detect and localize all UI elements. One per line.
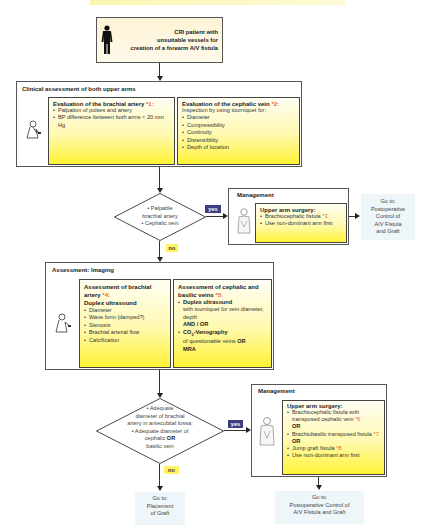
arrow-down-icon <box>157 486 163 491</box>
reference-marker: *2: <box>271 101 279 107</box>
connector-line <box>224 430 246 431</box>
decision-line: brachial artery <box>124 213 196 221</box>
decision-or: OR <box>167 435 175 441</box>
item-bold: Duplex ultrasound <box>183 299 232 305</box>
decision-line: • Adequate <box>110 405 210 413</box>
decision-text: cephalic <box>145 435 167 441</box>
list-item: Brachiobasilic transposed fistula *7 OR <box>287 431 380 445</box>
connector-line <box>159 63 160 76</box>
connector-line <box>206 216 223 217</box>
decision-line: artery in antecubital fossa; <box>110 420 210 428</box>
list-item: CO2-Venographyof questionable veins ORMR… <box>178 329 267 353</box>
start-line: CRI patient with <box>131 28 218 36</box>
arrow-right-icon <box>355 213 360 219</box>
item-text: of questionable veins <box>183 338 236 344</box>
veins-imaging-heading: Assessment of cephalic and basilic veins… <box>178 283 267 299</box>
or-text: OR <box>292 423 300 429</box>
goto-postoperative-control-1[interactable]: Go to: Postoperative Control of A/V Fist… <box>361 194 415 240</box>
arrow-down-icon <box>316 485 322 490</box>
list-item: Duplex ultrasoundwith tourniquet for vei… <box>178 299 267 329</box>
cephalic-intro: Inspection by using tourniquet for: <box>182 107 295 114</box>
connector-line <box>159 464 160 487</box>
connector-line <box>318 477 319 485</box>
connector-line <box>159 167 160 188</box>
doctor-examining-icon <box>24 120 42 142</box>
list-item: Diameter <box>84 307 166 314</box>
heading-text: Assessment of brachial artery <box>84 284 151 298</box>
decision1-text: • Palpable brachial artery • Cephalic ve… <box>124 205 196 228</box>
reference-marker: *8 <box>336 445 341 451</box>
item-bold: MRA <box>183 346 196 352</box>
decision2-text: • Adequate diameter of brachial artery i… <box>110 405 210 451</box>
veins-imaging-list: Duplex ultrasoundwith tourniquet for vei… <box>178 299 267 353</box>
decision-line: • Adequate diameter of <box>110 428 210 436</box>
surgeon-icon <box>236 207 252 235</box>
method-label: Duplex ultrasound <box>84 299 166 307</box>
top-color-band <box>90 0 345 5</box>
start-line: creation of a forearm A/V fistula <box>131 44 218 52</box>
management-title: Management <box>237 192 274 198</box>
veins-imaging-box: Assessment of cephalic and basilic veins… <box>173 279 272 368</box>
decision-line: • Cephalic vein <box>124 220 196 228</box>
list-item: Palpation of pulses and artery <box>53 107 170 114</box>
clinical-assessment-box: Clinical assessment of both upper arms E… <box>16 81 302 167</box>
no-label: no <box>166 244 178 252</box>
list-item: Stenosis <box>84 322 166 329</box>
list-item: Compressibility <box>182 122 295 129</box>
decision-line: cephalic OR <box>110 435 210 443</box>
goto-line: Postoperative <box>361 206 415 214</box>
brachial-imaging-heading: Assessment of brachial artery *4: <box>84 283 166 299</box>
goto-line: and Graft <box>361 228 415 236</box>
surgery-list: Brachiocephalic fistula *3 Use non-domin… <box>260 213 342 228</box>
decision-line: diameter of brachial <box>110 413 210 421</box>
list-item: Depth of location <box>182 144 295 151</box>
list-item: Brachial arterial flow <box>84 329 166 336</box>
or-text: OR <box>292 438 300 444</box>
list-item: BP difference between both arms < 20 mm … <box>53 114 170 129</box>
list-item: Use non-dominant arm first <box>260 220 342 227</box>
standing-person-silhouette-icon <box>101 25 113 55</box>
brachial-imaging-list: Diameter Wave form (damped?) Stenosis Br… <box>84 307 166 344</box>
or-text: OR <box>237 338 245 344</box>
surgery-list: Brachiocephalic fistula with transposed … <box>287 409 380 459</box>
list-item: Distensibility <box>182 137 295 144</box>
connector-line <box>159 241 160 257</box>
brachial-evaluation-box: Evaluation of the brachial artery *1: Pa… <box>48 97 175 165</box>
list-item: Use non-dominant arm first <box>287 452 380 459</box>
reference-marker: *3 <box>322 213 327 219</box>
goto-line: Go to: <box>275 494 364 502</box>
list-item: Brachiocephalic fistula with transposed … <box>287 409 380 431</box>
goto-line: Go to: <box>135 495 185 503</box>
goto-line: Postoperative Control of <box>275 502 364 510</box>
goto-line: of Graft <box>135 510 185 518</box>
goto-line: A/V Fistula <box>361 221 415 229</box>
decision-line: basilic vein <box>110 443 210 451</box>
imaging-title: Assessment: Imaging <box>52 267 114 273</box>
item-text: Brachiocephalic fistula with transposed … <box>292 409 359 422</box>
management-title: Management <box>258 388 295 394</box>
reference-marker: *4: <box>102 292 110 298</box>
reference-marker: *6 <box>355 416 360 422</box>
list-item: Brachiocephalic fistula *3 <box>260 213 342 220</box>
goto-line: Control of <box>361 213 415 221</box>
list-item: Continuity <box>182 129 295 136</box>
goto-line: Placement <box>135 503 185 511</box>
list-item: Wave form (damped?) <box>84 314 166 321</box>
start-text: CRI patient with unsuitable vessels for … <box>131 28 218 52</box>
item-text: Brachiocephalic fistula <box>265 213 321 219</box>
item-bold: -Venography <box>194 329 228 335</box>
clinical-title: Clinical assessment of both upper arms <box>22 86 136 92</box>
doctor-ultrasound-icon <box>54 313 72 335</box>
upper-arm-surgery-box-2: Upper arm surgery: Brachiocephalic fistu… <box>282 400 385 475</box>
item-text: Jump graft fistula <box>292 445 335 451</box>
goto-line: Go to: <box>361 198 415 206</box>
list-item: Diameter <box>182 114 295 121</box>
imaging-assessment-box: Assessment: Imaging Assessment of brachi… <box>45 262 274 370</box>
item-text: with tourniquet for vein diameter, depth <box>183 306 264 319</box>
goto-placement-of-graft[interactable]: Go to: Placement of Graft <box>135 492 185 525</box>
surgeon-icon <box>258 415 276 447</box>
reference-marker: *7 <box>373 431 378 437</box>
goto-postoperative-control-2[interactable]: Go to: Postoperative Control of A/V Fist… <box>275 491 364 524</box>
list-item: Jump graft fistula *8 <box>287 445 380 452</box>
brachial-evaluation-list: Palpation of pulses and artery BP differ… <box>53 107 170 129</box>
